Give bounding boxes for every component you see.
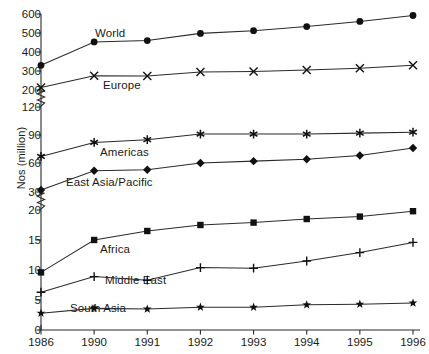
marker-circle <box>144 37 151 44</box>
marker-star <box>143 304 152 312</box>
series-africa <box>38 208 416 276</box>
marker-square <box>91 237 97 243</box>
marker-star <box>249 303 258 311</box>
marker-asterisk <box>37 152 45 161</box>
marker-plus <box>302 257 311 266</box>
marker-star <box>355 300 364 308</box>
series-south-asia <box>37 298 418 317</box>
series-line <box>41 65 413 87</box>
series-europe <box>37 61 417 91</box>
marker-square <box>197 222 203 228</box>
marker-square <box>410 208 416 214</box>
marker-square <box>304 216 310 222</box>
marker-diamond <box>249 157 257 165</box>
marker-plus <box>143 276 152 285</box>
marker-square <box>250 219 256 225</box>
marker-star <box>302 300 311 308</box>
marker-plus <box>249 264 258 273</box>
marker-circle <box>410 12 417 19</box>
series-east-asia-pacific <box>37 144 417 194</box>
marker-plus <box>409 238 418 247</box>
line-chart: Nos (million) 05101520306090120200300400… <box>0 0 429 354</box>
marker-diamond <box>409 144 417 152</box>
marker-diamond <box>303 155 311 163</box>
plot-area <box>0 0 429 354</box>
marker-circle <box>356 18 363 25</box>
series-line <box>41 242 413 292</box>
marker-star <box>196 303 205 311</box>
marker-diamond <box>356 151 364 159</box>
marker-circle <box>91 39 98 46</box>
marker-plus <box>355 248 364 257</box>
marker-square <box>38 269 44 275</box>
marker-plus <box>196 263 205 272</box>
series-world <box>38 12 417 69</box>
series-middle-east <box>37 238 418 297</box>
marker-plus <box>37 288 46 297</box>
marker-plus <box>90 272 99 281</box>
marker-circle <box>303 23 310 30</box>
marker-diamond <box>90 167 98 175</box>
marker-square <box>357 213 363 219</box>
marker-star <box>90 304 99 312</box>
marker-circle <box>250 27 257 34</box>
marker-diamond <box>196 159 204 167</box>
marker-square <box>144 228 150 234</box>
marker-circle <box>38 62 45 69</box>
marker-diamond <box>143 166 151 174</box>
marker-circle <box>197 30 204 37</box>
marker-star <box>409 298 418 306</box>
